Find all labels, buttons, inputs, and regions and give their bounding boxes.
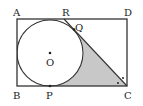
angle-mark-1 [117, 82, 119, 84]
label-r: R [62, 7, 70, 18]
shaded-region [50, 30, 127, 86]
label-d: D [124, 7, 132, 18]
label-p: P [46, 90, 53, 101]
label-o: O [46, 57, 54, 68]
label-c: C [124, 90, 132, 101]
label-b: B [13, 90, 20, 101]
point-p [49, 85, 52, 88]
label-a: A [12, 7, 21, 18]
label-q: Q [75, 22, 83, 33]
point-o [49, 52, 52, 55]
angle-mark-2 [122, 77, 124, 79]
geometry-diagram: A R Q D O B P C [0, 0, 143, 106]
